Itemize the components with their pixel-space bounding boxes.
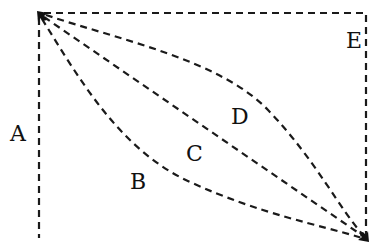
label-c: C — [186, 141, 203, 166]
label-b: B — [130, 169, 146, 194]
path-diagram: A B C D E — [0, 0, 378, 251]
label-d: D — [231, 104, 249, 129]
label-e: E — [346, 28, 362, 53]
path-b — [42, 19, 362, 238]
path-c — [44, 17, 363, 236]
label-a: A — [9, 121, 27, 146]
path-e — [44, 13, 366, 236]
